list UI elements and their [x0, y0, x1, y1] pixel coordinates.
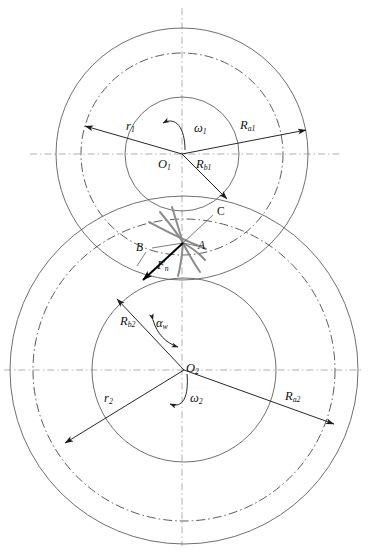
leader-tick-point-B [137, 252, 146, 266]
gear1-tooth-profile-left [160, 212, 184, 244]
gear-diagram-canvas [0, 0, 369, 554]
gear2-angular-velocity-arc [170, 374, 187, 405]
label-gear1-angular-velocity: ω1 [194, 122, 207, 135]
label-gear2-angular-velocity: ω2 [190, 392, 203, 405]
label-gear1-addendum-radius: Ra1 [240, 119, 255, 132]
label-gear2-pitch-radius: r2 [104, 392, 113, 405]
gear-mesh-diagram: r1 Ra1 ω1 O1 Rb1 C A B Fn Rb2 αw O2 r2 ω… [0, 0, 369, 554]
label-gear2-center: O2 [186, 362, 199, 375]
label-gear1-center: O1 [158, 158, 171, 171]
label-gear2-pressure-angle: αw [156, 317, 168, 330]
gear2-pitch-radius-dimension [65, 370, 184, 443]
label-normal-force: Fn [157, 259, 169, 272]
label-point-A: A [198, 240, 205, 252]
gear2-base-radius-dimension [117, 299, 184, 370]
gear2-addendum-radius-dimension [184, 370, 334, 424]
label-gear2-base-radius: Rb2 [120, 315, 135, 328]
label-point-C: C [217, 206, 225, 218]
label-gear1-base-radius: Rb1 [196, 158, 211, 171]
label-gear1-pitch-radius: r1 [126, 120, 135, 133]
label-gear2-addendum-radius: Ra2 [285, 390, 300, 403]
label-point-B: B [136, 242, 143, 254]
